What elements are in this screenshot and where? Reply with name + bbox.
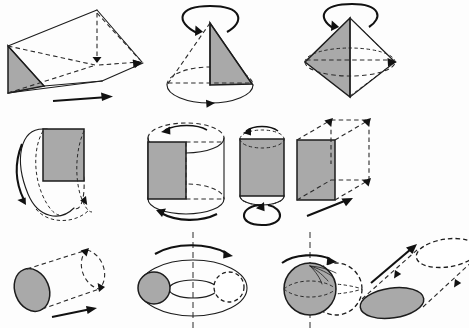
- figure-board: Solids generated by translation and revo…: [0, 0, 469, 328]
- torus-generator-circle: [138, 272, 170, 304]
- rprism-translation-arrow-shaft: [307, 200, 347, 216]
- figure-slanted-cylinder: [355, 235, 469, 325]
- slcyl-translation-arrow-shaft: [371, 249, 411, 283]
- rprism-generator-rectangle: [297, 140, 335, 200]
- sphere-rotation-arrow-shaft: [282, 255, 330, 263]
- vcyl-top-rotation-arrow: [165, 126, 207, 131]
- rprism-top-left-edge: [297, 120, 331, 140]
- torus-rotation-arrow-shaft: [155, 245, 226, 254]
- bicone-generator-triangle: [305, 18, 350, 97]
- cone-left-slant: [167, 23, 210, 85]
- ncyl-top-rotation-arrowhead: [243, 128, 251, 135]
- ocyl-far-end-right: [87, 250, 105, 289]
- vcyl-generator-rectangle: [148, 142, 186, 199]
- rprism-arrowhead-top-left: [324, 118, 333, 126]
- rprism-top-right-edge: [335, 120, 369, 140]
- bicone-right-lower-edge: [350, 62, 395, 97]
- slcyl-generator-ellipse: [358, 284, 426, 323]
- prism-translation-arrowhead: [101, 93, 113, 101]
- sphere-generator-circle: [284, 263, 336, 315]
- ocyl-arrowhead-bottom: [98, 283, 105, 292]
- cone-rotation-arrowhead: [195, 26, 203, 37]
- rprism-arrowhead-top-right: [362, 118, 371, 126]
- figure-horizontal-axis-cylinder: [8, 112, 128, 227]
- figure-rectangular-prism: [285, 112, 420, 227]
- figure-triangular-prism: [0, 0, 160, 110]
- cone-base-front-arc: [167, 85, 253, 103]
- figure-vertical-axis-cylinder: [135, 112, 245, 227]
- figure-torus: [130, 232, 265, 328]
- figure-bicone: [295, 0, 425, 110]
- prism-hidden-diag: [97, 13, 140, 60]
- ocyl-translation-arrowhead: [86, 306, 97, 314]
- rprism-arrowhead-bottom-right: [362, 178, 371, 186]
- prism-top-far-edge: [8, 10, 97, 46]
- vcyl-top-rotation-arrowhead: [161, 127, 170, 135]
- torus-rotation-arrowhead: [223, 250, 233, 259]
- cone-base-arrowhead: [206, 100, 215, 108]
- torus-swept-circle: [214, 272, 244, 302]
- prism-arrowhead-vertical: [93, 57, 102, 63]
- figure-oblique-cylinder-translation: [5, 235, 130, 325]
- hcyl-sweep-bottom: [36, 209, 88, 221]
- ocyl-lower-side: [42, 289, 99, 309]
- ocyl-translation-arrow-shaft: [52, 309, 91, 317]
- ocyl-upper-side: [27, 250, 87, 269]
- prism-hidden-back-base: [99, 62, 139, 65]
- prism-translation-arrow-shaft: [53, 97, 108, 101]
- slcyl-arrowhead-right-side: [454, 279, 461, 287]
- slcyl-arrowhead-left-side: [394, 270, 401, 278]
- slcyl-swept-ellipse: [414, 235, 469, 271]
- hcyl-rotation-arrowhead-left: [17, 197, 26, 205]
- figure-cone: [155, 0, 285, 110]
- rprism-bottom-right-edge: [335, 180, 369, 200]
- ocyl-generator-circle: [8, 263, 56, 317]
- ncyl-bottom-rotation-arrowhead: [256, 202, 265, 211]
